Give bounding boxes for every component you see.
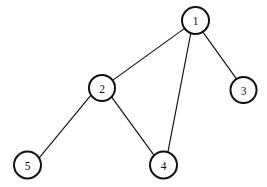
node-label-5: 5 — [25, 160, 31, 172]
graph-svg: 12345 — [0, 0, 267, 187]
node-label-2: 2 — [99, 83, 105, 95]
graph-edge-2-5 — [39, 95, 91, 158]
node-label-4: 4 — [161, 160, 167, 172]
graph-node-2[interactable]: 2 — [89, 75, 115, 101]
nodes-layer: 12345 — [14, 7, 257, 179]
graph-node-3[interactable]: 3 — [231, 77, 257, 103]
node-label-3: 3 — [241, 85, 247, 97]
graph-edge-1-2 — [113, 28, 185, 80]
graph-edge-1-3 — [203, 32, 237, 79]
graph-node-1[interactable]: 1 — [182, 7, 209, 34]
graph-node-4[interactable]: 4 — [150, 152, 177, 179]
node-label-1: 1 — [193, 15, 199, 27]
edges-layer — [39, 28, 237, 158]
graph-edge-1-4 — [168, 33, 191, 152]
graph-diagram-canvas: 12345 — [0, 0, 267, 187]
graph-edge-2-4 — [112, 97, 154, 155]
graph-node-5[interactable]: 5 — [14, 152, 41, 179]
